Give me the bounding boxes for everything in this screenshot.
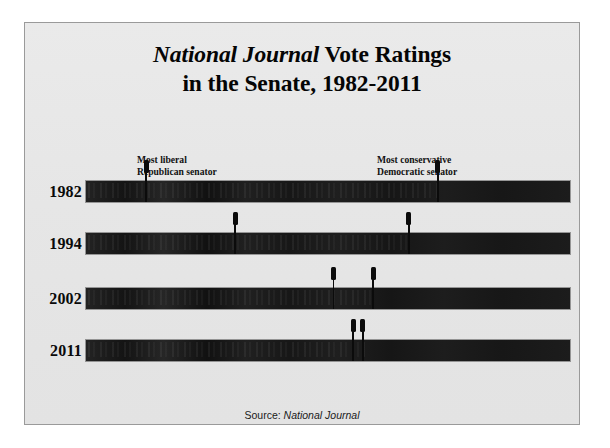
annotation-right-line-1: Most conservative	[377, 154, 457, 166]
annotation-most-conservative-democrat: Most conservative Democratic senator	[377, 154, 457, 179]
marker-stem	[362, 331, 363, 361]
marker-most-conservative-democrat	[406, 212, 411, 254]
senator-marks	[88, 183, 440, 198]
row-year-label: 1994	[36, 235, 82, 253]
row-year-label: 2011	[36, 342, 82, 360]
marker-most-conservative-democrat	[360, 319, 365, 361]
annotation-most-liberal-republican: Most liberal Republican senator	[137, 154, 217, 179]
title-line-1-rest: Vote Ratings	[319, 41, 451, 67]
senator-marks	[88, 342, 365, 357]
chart-panel: National Journal Vote Ratings in the Sen…	[24, 22, 580, 425]
marker-stem	[437, 172, 438, 202]
title-line-1: National Journal Vote Ratings	[25, 40, 579, 69]
annotation-right-line-2: Democratic senator	[377, 166, 457, 178]
marker-most-liberal-republican	[331, 267, 336, 309]
source-prefix: Source:	[245, 409, 284, 421]
source-publication: National Journal	[284, 409, 360, 421]
marker-stem	[408, 224, 409, 254]
marker-most-liberal-republican	[233, 212, 238, 254]
spectrum-bar	[86, 340, 570, 361]
spectrum-bar	[86, 181, 570, 202]
annotation-left-line-2: Republican senator	[137, 166, 217, 178]
marker-stem	[352, 331, 353, 361]
figure-root: National Journal Vote Ratings in the Sen…	[0, 0, 610, 448]
marker-stem	[145, 172, 146, 202]
marker-stem	[372, 279, 373, 309]
marker-stem	[333, 279, 334, 309]
spectrum-bar	[86, 233, 570, 254]
title-publication-name: National Journal	[153, 41, 319, 67]
marker-most-conservative-democrat	[371, 267, 376, 309]
row-year-label: 2002	[36, 290, 82, 308]
marker-most-conservative-democrat	[435, 160, 440, 202]
row-year-label: 1982	[36, 183, 82, 201]
marker-stem	[234, 224, 235, 254]
senator-marks	[88, 235, 411, 250]
page-title: National Journal Vote Ratings in the Sen…	[25, 40, 579, 97]
marker-most-liberal-republican	[144, 160, 149, 202]
spectrum-bar	[86, 288, 570, 309]
title-line-2: in the Senate, 1982-2011	[25, 69, 579, 98]
source-note: Source: National Journal	[25, 409, 579, 421]
annotation-left-line-1: Most liberal	[137, 154, 217, 166]
marker-most-liberal-republican	[351, 319, 356, 361]
